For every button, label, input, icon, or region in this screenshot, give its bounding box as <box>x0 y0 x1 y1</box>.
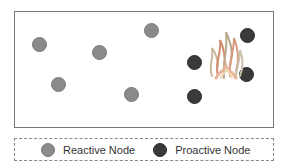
reactive-node <box>92 45 107 60</box>
legend-reactive-label: Reactive Node <box>63 144 135 156</box>
reactive-node <box>124 87 139 102</box>
legend-proactive-label: Proactive Node <box>175 144 250 156</box>
legend: Reactive Node Proactive Node <box>14 138 274 161</box>
reactive-node <box>144 23 159 38</box>
reactive-node <box>51 77 66 92</box>
proactive-node <box>187 55 202 70</box>
proactive-node-swatch <box>153 143 167 157</box>
proactive-node <box>187 89 202 104</box>
reactive-node-swatch <box>41 143 55 157</box>
fire-icon <box>206 26 246 80</box>
reactive-node <box>32 37 47 52</box>
